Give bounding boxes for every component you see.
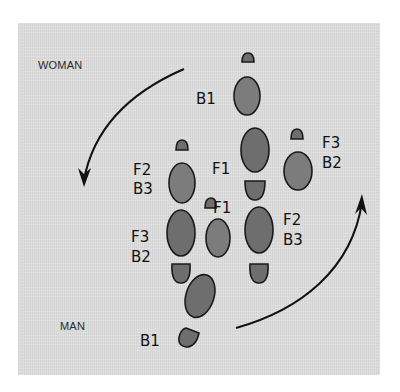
man-label: MAN (60, 320, 85, 332)
step-label-left-b3: B3 (133, 180, 153, 198)
step-label-woman-b2: B2 (322, 154, 342, 172)
woman-rotation-arrow-icon (78, 69, 184, 187)
step-label-man-b1: B1 (140, 332, 160, 350)
footprint-left-f3-b2 (167, 210, 195, 283)
step-label-left-b2: B2 (131, 248, 151, 266)
woman-label: WOMAN (38, 59, 82, 71)
footprint-right-f2-b3 (245, 207, 273, 283)
footprint-left-f2-b3 (169, 140, 195, 203)
step-label-left-f3: F3 (131, 228, 149, 246)
step-label-left-f2: F2 (133, 161, 151, 179)
footprint-woman-f1 (241, 128, 269, 200)
footprint-woman-f3-b2 (284, 129, 312, 190)
step-label-woman-f3: F3 (322, 134, 340, 152)
footprint-diagram: WOMAN MAN (0, 0, 400, 392)
footprint-woman-b1 (234, 53, 260, 115)
step-label-woman-f1: F1 (212, 160, 230, 178)
step-label-man-f1: F1 (213, 199, 231, 217)
step-label-woman-b1: B1 (196, 90, 216, 108)
step-label-right-f2: F2 (283, 211, 301, 229)
step-label-right-b3: B3 (283, 231, 303, 249)
